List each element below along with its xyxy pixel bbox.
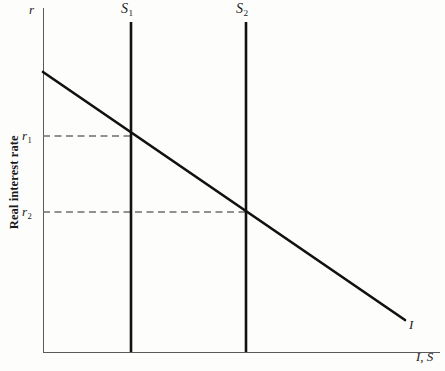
saving-curve-s2-subscript: 2 (243, 8, 248, 18)
saving-curve-s1-label: S1 (121, 2, 133, 18)
investment-curve-i (43, 72, 405, 320)
rate-r2-subscript: 2 (27, 211, 32, 221)
rate-r1-label: r1 (22, 129, 32, 144)
saving-curve-s1-subscript: 1 (128, 8, 133, 18)
y-axis-title: Real interest rate (8, 112, 21, 252)
rate-r1-subscript: 1 (27, 135, 32, 145)
x-axis-title-investment: I, (416, 349, 424, 364)
saving-curve-s2-base: S (236, 1, 243, 16)
saving-curve-s1-base: S (121, 1, 128, 16)
rate-r2-label: r2 (22, 205, 32, 220)
y-axis-variable-label: r (29, 3, 34, 16)
loanable-funds-diagram: r S1 S2 r1 r2 I I, S Real interest rate (0, 0, 445, 371)
chart-canvas (0, 0, 445, 371)
saving-curve-s2-label: S2 (236, 2, 248, 18)
investment-curve-label: I (409, 318, 413, 331)
x-axis-title: I, S (416, 350, 433, 363)
x-axis-title-saving: S (427, 349, 434, 364)
